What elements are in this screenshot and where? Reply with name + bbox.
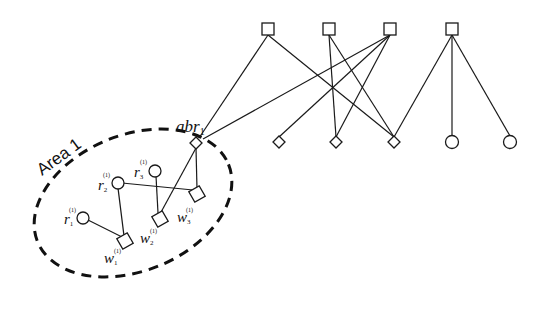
r1-node[interactable] (77, 212, 89, 224)
bottom-row-nodes (273, 136, 517, 149)
r2-node[interactable] (112, 177, 124, 189)
r3-label: r3 (134, 164, 144, 181)
edge-abr-w2 (160, 148, 196, 214)
square-node-3[interactable] (384, 23, 396, 35)
edge-r2-w3 (122, 183, 193, 190)
w1-sup: (1) (114, 248, 121, 255)
square-node-2[interactable] (323, 23, 335, 35)
w3-node[interactable] (189, 186, 205, 202)
abr1-node[interactable] (190, 137, 202, 149)
square-node-1[interactable] (262, 23, 274, 35)
abr1-label: abr1 (176, 117, 205, 137)
area-1-boundary (12, 101, 254, 304)
r2-label: r2 (98, 177, 108, 194)
w3-sup: (1) (186, 207, 193, 214)
edge-abr-w3 (196, 148, 197, 189)
r1-label: r1 (64, 211, 74, 228)
diamond-node-3[interactable] (388, 136, 400, 148)
circle-node-1[interactable] (446, 136, 459, 149)
backbone-edges (199, 35, 510, 139)
r3-sup: (1) (140, 159, 147, 166)
diamond-node-2[interactable] (330, 136, 342, 148)
r3-node[interactable] (149, 165, 161, 177)
edge-sq4-d3 (394, 35, 452, 137)
circle-node-2[interactable] (504, 136, 517, 149)
edge-sq1-d3 (268, 35, 394, 137)
edge-r1-w1 (88, 220, 124, 238)
edge-sq4-c2 (452, 35, 510, 136)
edge-r3-w2 (156, 176, 158, 213)
diamond-node-1[interactable] (273, 136, 285, 148)
edge-r2-w1 (118, 188, 124, 236)
w2-sup: (1) (150, 228, 157, 235)
square-node-4[interactable] (446, 23, 458, 35)
network-diagram: abr1 Area 1 r1 (1) r2 (1) r3 (1) w1 (1) … (0, 0, 542, 311)
w2-node[interactable] (152, 211, 168, 227)
r1-sup: (1) (69, 207, 76, 214)
r2-sup: (1) (103, 172, 110, 179)
top-row-nodes (262, 23, 458, 35)
